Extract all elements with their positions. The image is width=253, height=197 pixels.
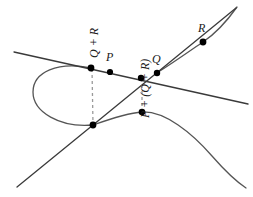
line-through-R-and-Q [93, 8, 236, 125]
line-through-P-and-Q [14, 52, 248, 104]
elliptic-curve-oval-component [33, 66, 93, 125]
elliptic-curve-main-branch [93, 112, 246, 188]
label-q-plus-r: Q + R [88, 28, 100, 58]
point-q-plus-r [88, 65, 95, 72]
label-p-plus-q-plus-r: P + (Q + R) [139, 59, 151, 118]
elliptic-curve-diagram: Q + R P Q R P + (Q + R) [0, 0, 253, 197]
diagram-canvas [0, 0, 253, 197]
label-p: P [106, 51, 113, 63]
label-q: Q [152, 53, 161, 65]
point-q [154, 70, 160, 76]
point-r [200, 39, 207, 46]
point-p [107, 69, 113, 75]
point-reflection-of-q-plus-r [90, 122, 97, 129]
line-lower-left-diagonal [17, 125, 93, 187]
vertical-dashed-q-plus-r [92, 69, 93, 124]
label-r: R [198, 22, 205, 34]
